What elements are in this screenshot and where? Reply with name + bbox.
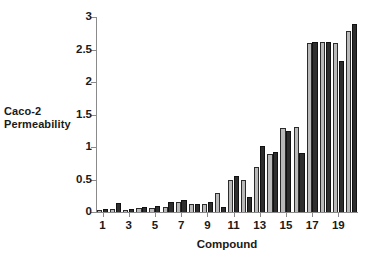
- x-axis-tick-mark: [181, 213, 182, 217]
- bar-light: [110, 209, 115, 212]
- bar-light: [97, 210, 102, 212]
- x-axis-tick-mark: [129, 213, 130, 217]
- x-axis-tick-label: 3: [118, 219, 140, 231]
- x-axis-tick-label: 15: [275, 219, 297, 231]
- bar-group: [97, 17, 108, 212]
- x-axis-tick-mark: [338, 213, 339, 217]
- y-axis-tick-label: 0.5: [76, 173, 92, 185]
- bar-light: [280, 128, 285, 213]
- bar-dark: [273, 152, 278, 212]
- bar-dark: [339, 61, 344, 212]
- x-axis-title: Compound: [96, 238, 358, 250]
- bar-light: [254, 167, 259, 212]
- bar-group: [307, 17, 318, 212]
- x-axis-tick-mark: [103, 213, 104, 217]
- bar-group: [123, 17, 134, 212]
- bar-dark: [142, 207, 147, 212]
- x-axis-tick-label: 5: [144, 219, 166, 231]
- caco2-permeability-bar-chart: Caco-2 Permeability 00.511.522.53 135791…: [0, 0, 374, 263]
- bar-light: [320, 42, 325, 212]
- bar-dark: [116, 203, 121, 212]
- bar-dark: [129, 209, 134, 212]
- bar-group: [267, 17, 278, 212]
- bar-group: [294, 17, 305, 212]
- bar-light: [123, 210, 128, 212]
- bar-dark: [260, 146, 265, 212]
- bar-group: [149, 17, 160, 212]
- x-axis-tick-mark: [260, 213, 261, 217]
- bar-dark: [326, 42, 331, 212]
- y-axis-tick-label: 2.5: [76, 43, 92, 55]
- bar-light: [241, 180, 246, 213]
- bar-light: [215, 193, 220, 213]
- bar-light: [267, 154, 272, 213]
- bar-group: [215, 17, 226, 212]
- x-axis-tick-mark: [155, 213, 156, 217]
- bar-light: [163, 207, 168, 212]
- bar-group: [241, 17, 252, 212]
- bar-group: [163, 17, 174, 212]
- bar-dark: [155, 206, 160, 213]
- bar-group: [320, 17, 331, 212]
- y-axis-title-line-2: Permeability: [4, 118, 74, 131]
- bar-group: [176, 17, 187, 212]
- bar-light: [294, 127, 299, 212]
- y-axis-tick-label: 3: [86, 10, 92, 22]
- bar-light: [136, 208, 141, 212]
- y-axis-tick-label: 1: [86, 140, 92, 152]
- bar-dark: [195, 204, 200, 212]
- bar-light: [149, 208, 154, 212]
- x-axis-tick-label: 9: [196, 219, 218, 231]
- plot-area: 00.511.522.53 135791113151719: [96, 17, 358, 213]
- x-axis-line: [96, 212, 358, 213]
- bar-group: [280, 17, 291, 212]
- bar-group: [202, 17, 213, 212]
- y-axis-tick-label: 2: [86, 75, 92, 87]
- x-axis-tick-mark: [234, 213, 235, 217]
- y-axis-tick-label: 1.5: [76, 108, 92, 120]
- x-axis-tick-mark: [312, 213, 313, 217]
- bar-group: [136, 17, 147, 212]
- y-axis-tick-label: 0: [86, 205, 92, 217]
- bar-light: [176, 202, 181, 212]
- x-axis-tick-mark: [207, 213, 208, 217]
- bar-dark: [221, 207, 226, 212]
- x-axis-tick-label: 1: [92, 219, 114, 231]
- bar-dark: [312, 42, 317, 212]
- bar-light: [189, 204, 194, 212]
- bar-dark: [299, 153, 304, 212]
- bar-dark: [168, 202, 173, 212]
- bar-group: [189, 17, 200, 212]
- bar-group: [346, 17, 357, 212]
- bar-group: [228, 17, 239, 212]
- bar-dark: [103, 209, 108, 212]
- x-axis-tick-label: 13: [249, 219, 271, 231]
- x-axis-tick-label: 7: [170, 219, 192, 231]
- x-axis-tick-label: 17: [301, 219, 323, 231]
- y-axis-title: Caco-2 Permeability: [4, 105, 74, 131]
- x-axis-tick-label: 11: [223, 219, 245, 231]
- bar-dark: [208, 202, 213, 212]
- y-axis-title-line-1: Caco-2: [4, 105, 74, 118]
- bar-dark: [352, 24, 357, 213]
- bar-dark: [181, 200, 186, 212]
- bar-dark: [286, 131, 291, 212]
- bar-group: [254, 17, 265, 212]
- x-axis-tick-mark: [286, 213, 287, 217]
- bar-dark: [247, 197, 252, 212]
- x-axis-tick-label: 19: [327, 219, 349, 231]
- bar-light: [333, 43, 338, 212]
- bar-group: [110, 17, 121, 212]
- bar-light: [346, 31, 351, 212]
- bar-light: [307, 43, 312, 212]
- bar-light: [228, 180, 233, 212]
- bar-light: [202, 204, 207, 212]
- bar-dark: [234, 176, 239, 212]
- bar-group: [333, 17, 344, 212]
